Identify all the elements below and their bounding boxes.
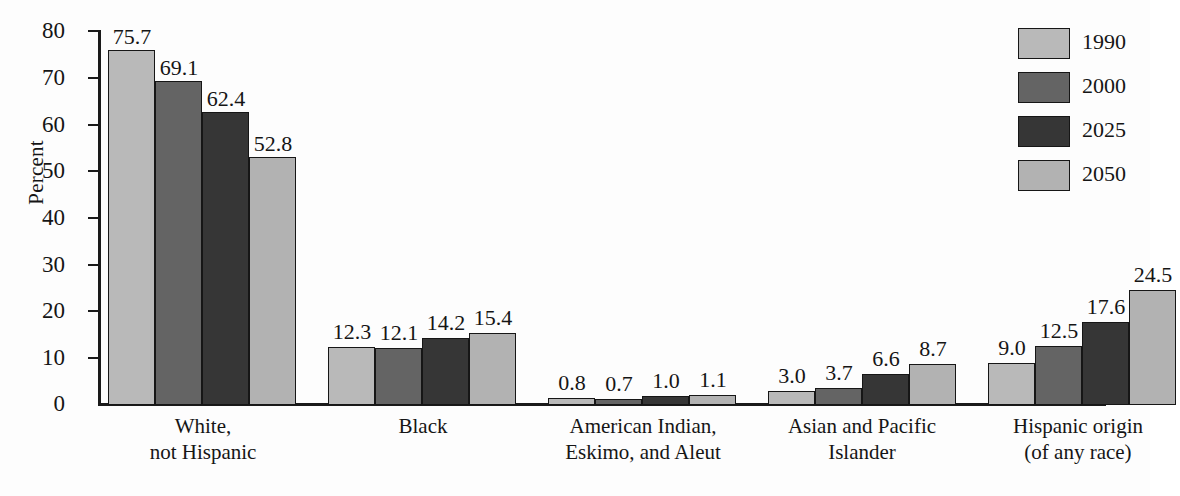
x-axis-label-hispanic-origin: Hispanic origin (of any race) <box>983 414 1173 465</box>
y-tick-mark-60 <box>88 124 99 126</box>
x-axis-label-line2: (of any race) <box>983 440 1173 466</box>
bar-value-amerindian-2050: 1.1 <box>681 369 745 391</box>
bar-value-white-2050: 52.8 <box>241 133 305 155</box>
bar-value-white-2000: 69.1 <box>147 57 211 79</box>
plot-area: 75.7 69.1 62.4 52.8 12.3 12.1 14.2 15.4 … <box>101 30 1106 405</box>
bar-black-2025[interactable] <box>422 338 469 405</box>
x-axis-label-asian-pacific-islander: Asian and Pacific Islander <box>762 414 962 465</box>
legend-swatch-2050 <box>1018 160 1070 191</box>
legend-label-2050: 2050 <box>1082 163 1126 185</box>
x-axis-label-line1: Black <box>328 414 518 440</box>
y-tick-label-30: 30 <box>9 253 65 276</box>
bar-black-1990[interactable] <box>328 347 375 405</box>
bar-amerindian-2000[interactable] <box>595 399 642 405</box>
bar-group-asian-pacific-islander: 3.0 3.7 6.6 8.7 <box>768 30 958 405</box>
y-tick-mark-40 <box>88 217 99 219</box>
bar-group-american-indian: 0.8 0.7 1.0 1.1 <box>548 30 738 405</box>
y-tick-label-70: 70 <box>9 66 65 89</box>
bar-value-white-1990: 75.7 <box>100 26 164 48</box>
y-tick-mark-30 <box>88 264 99 266</box>
x-axis-label-line1: Hispanic origin <box>983 414 1173 440</box>
x-axis-label-white-not-hispanic: White, not Hispanic <box>108 414 298 465</box>
bar-amerindian-2025[interactable] <box>642 396 689 405</box>
y-tick-mark-50 <box>88 170 99 172</box>
y-tick-label-40: 40 <box>9 206 65 229</box>
bar-value-hispanic-2025: 17.6 <box>1074 296 1138 318</box>
x-axis-label-line2: Eskimo, and Aleut <box>538 440 748 466</box>
bar-value-asian-2050: 8.7 <box>901 338 965 360</box>
y-tick-mark-80 <box>88 30 99 32</box>
y-tick-label-60: 60 <box>9 113 65 136</box>
x-axis-label-american-indian: American Indian, Eskimo, and Aleut <box>538 414 748 465</box>
x-axis-label-line2: not Hispanic <box>108 440 298 466</box>
x-axis-label-line1: American Indian, <box>538 414 748 440</box>
y-tick-label-80: 80 <box>9 19 65 42</box>
bar-black-2050[interactable] <box>469 333 516 405</box>
y-tick-label-0: 0 <box>9 392 65 415</box>
y-tick-mark-70 <box>88 77 99 79</box>
legend-swatch-2000 <box>1018 72 1070 103</box>
y-tick-label-10: 10 <box>9 346 65 369</box>
legend-label-1990: 1990 <box>1082 31 1126 53</box>
bar-value-hispanic-2000: 12.5 <box>1027 320 1091 342</box>
bar-value-hispanic-2050: 24.5 <box>1121 264 1180 286</box>
legend-swatch-2025 <box>1018 116 1070 147</box>
bar-group-white-not-hispanic: 75.7 69.1 62.4 52.8 <box>108 30 298 405</box>
x-axis-label-black: Black <box>328 414 518 440</box>
bar-white-2025[interactable] <box>202 112 249 405</box>
bar-asian-2050[interactable] <box>909 364 956 405</box>
bar-value-black-2050: 15.4 <box>461 307 525 329</box>
y-tick-mark-10 <box>88 357 99 359</box>
x-axis-label-line1: Asian and Pacific <box>762 414 962 440</box>
bar-group-black: 12.3 12.1 14.2 15.4 <box>328 30 518 405</box>
bar-amerindian-2050[interactable] <box>689 395 736 405</box>
legend-label-2000: 2000 <box>1082 75 1126 97</box>
bar-white-2050[interactable] <box>249 157 296 405</box>
bar-asian-1990[interactable] <box>768 391 815 405</box>
bar-asian-2000[interactable] <box>815 388 862 405</box>
bar-hispanic-1990[interactable] <box>988 363 1035 405</box>
x-axis-label-line2: Islander <box>762 440 962 466</box>
y-tick-mark-20 <box>88 310 99 312</box>
bar-value-white-2025: 62.4 <box>194 88 258 110</box>
y-tick-label-20: 20 <box>9 299 65 322</box>
y-tick-label-50: 50 <box>9 159 65 182</box>
legend-label-2025: 2025 <box>1082 119 1126 141</box>
bar-white-1990[interactable] <box>108 50 155 405</box>
bar-amerindian-1990[interactable] <box>548 398 595 405</box>
bar-white-2000[interactable] <box>155 81 202 405</box>
legend-swatch-1990 <box>1018 28 1070 59</box>
bar-black-2000[interactable] <box>375 348 422 405</box>
x-axis-label-line1: White, <box>108 414 298 440</box>
